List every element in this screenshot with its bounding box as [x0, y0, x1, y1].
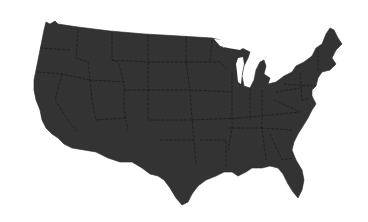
us-map-svg — [0, 0, 368, 222]
us-landmass — [34, 21, 342, 205]
us-map: United States (contiguous) — [0, 0, 368, 222]
